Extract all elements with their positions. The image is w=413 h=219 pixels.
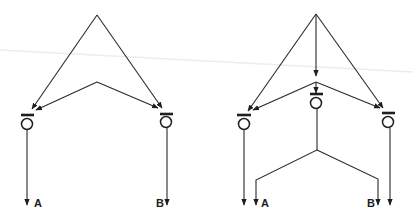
unit-node-left	[21, 115, 34, 130]
scan-artifact	[0, 50, 413, 72]
edge-apex-to-left-node	[248, 14, 316, 111]
left-diagram: A B	[21, 15, 173, 209]
output-label-a: A	[34, 197, 42, 209]
unit-circle	[311, 98, 322, 109]
unit-circle	[239, 119, 250, 130]
unit-circle	[161, 117, 172, 128]
unit-node-center	[310, 94, 323, 109]
branch-to-a	[256, 109, 317, 205]
edge-inner-to-left-node	[253, 82, 316, 110]
unit-node-right	[160, 114, 173, 128]
edge-apex-to-right-node	[97, 15, 162, 108]
edge-inner-to-right-node	[97, 82, 158, 108]
output-label-b: B	[156, 197, 164, 209]
unit-node-left	[237, 115, 251, 130]
edge-apex-to-right-node	[316, 14, 383, 108]
output-label-b: B	[367, 197, 375, 209]
unit-circle	[22, 119, 33, 130]
right-diagram: A B	[237, 14, 395, 209]
diagram-canvas: A B A B	[0, 0, 413, 219]
edge-inner-to-right-node	[316, 82, 380, 108]
unit-node-right	[382, 113, 395, 128]
output-label-a: A	[261, 197, 269, 209]
edge-inner-to-left-node	[36, 82, 97, 110]
edge-apex-to-left-node	[32, 15, 97, 109]
unit-circle	[383, 117, 394, 128]
